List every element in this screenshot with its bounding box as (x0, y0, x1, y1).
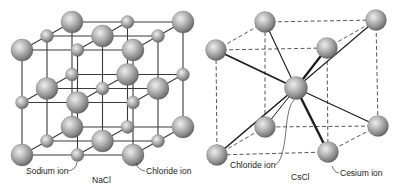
cscl-cube-edge (376, 20, 378, 126)
sodium-ion-sphere (71, 149, 84, 162)
chloride-leader-line-cscl (275, 100, 294, 165)
chloride-ion-sphere (11, 144, 33, 166)
chloride-ion-label-nacl: Chloride ion (146, 166, 192, 176)
chloride-ion-sphere (172, 11, 194, 33)
chloride-ion-sphere (285, 77, 308, 100)
cesium-leader-line (332, 166, 339, 173)
chloride-ion-sphere (67, 92, 89, 114)
chloride-ion-sphere (61, 116, 83, 138)
nacl-panel: Sodium ion Chloride ion NaCl (11, 11, 194, 185)
cscl-bond-line (216, 50, 296, 88)
cscl-cube-edge (327, 48, 328, 152)
chloride-ion-sphere (147, 78, 169, 100)
sodium-ion-sphere (152, 30, 165, 43)
chloride-ion-sphere (172, 116, 194, 138)
chloride-ion-sphere (61, 11, 83, 33)
cscl-panel: Chloride ion Cesium ion CsCl (206, 10, 389, 183)
chloride-ion-sphere (92, 25, 114, 47)
chloride-ion-sphere (36, 78, 58, 100)
cscl-cube-edge (216, 48, 327, 50)
cscl-cube-edge (265, 20, 376, 22)
sodium-ion-sphere (41, 30, 54, 43)
chloride-ion-sphere (122, 39, 144, 61)
sodium-ion-sphere (152, 135, 165, 148)
nacl-ions (11, 11, 194, 166)
cesium-ion-sphere (255, 117, 276, 138)
sodium-ion-sphere (177, 68, 190, 81)
sodium-ion-sphere (127, 96, 140, 109)
chloride-ion-sphere (122, 144, 144, 166)
crystal-structures-diagram: Sodium ion Chloride ion NaCl Chloride io… (0, 0, 397, 189)
sodium-leader-line (68, 162, 77, 171)
sodium-ion-sphere (41, 135, 54, 148)
sodium-ion-sphere (96, 82, 109, 95)
sodium-ion-sphere (16, 96, 29, 109)
cesium-ion-sphere (368, 116, 389, 137)
sodium-ion-sphere (121, 121, 134, 134)
cesium-ion-sphere (206, 40, 227, 61)
cscl-cube-edge (216, 50, 217, 155)
sodium-ion-label: Sodium ion (26, 166, 69, 176)
cesium-ion-label: Cesium ion (340, 168, 383, 178)
cesium-ion-sphere (318, 142, 339, 163)
cscl-cube-edge (217, 152, 328, 155)
sodium-ion-sphere (121, 16, 134, 29)
chloride-ion-sphere (117, 64, 139, 86)
cscl-caption: CsCl (291, 172, 310, 182)
cscl-cube-edge (265, 126, 378, 127)
cscl-bond-line (296, 88, 378, 126)
cesium-ion-sphere (255, 12, 276, 33)
cesium-ion-sphere (207, 145, 228, 166)
chloride-ion-sphere (11, 39, 33, 61)
sodium-ion-sphere (71, 44, 84, 57)
nacl-caption: NaCl (92, 175, 111, 185)
chloride-ion-sphere (92, 130, 114, 152)
cesium-ion-sphere (317, 38, 338, 59)
cscl-bond-line (296, 20, 376, 88)
sodium-ion-sphere (66, 68, 79, 81)
chloride-ion-label-cscl: Chloride ion (230, 160, 276, 170)
cesium-ion-sphere (366, 10, 387, 31)
